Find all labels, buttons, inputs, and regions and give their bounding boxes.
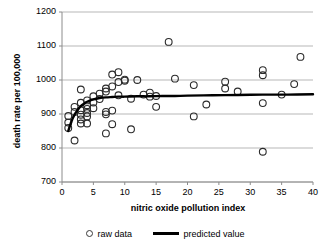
x-tick-label-20: 20	[176, 187, 200, 197]
data-point	[71, 137, 78, 144]
y-tick-label-700: 700	[26, 176, 56, 186]
y-axis-title-wrapper: death rate per 100,000	[12, 11, 26, 191]
x-tick-label-25: 25	[207, 187, 231, 197]
legend-label-predicted-value: predicted value	[184, 229, 245, 239]
scatter-chart: 700800900100011001200 0510152025303540 d…	[0, 0, 331, 252]
prediction-curve-path	[68, 94, 313, 131]
y-tick-label-1200: 1200	[26, 6, 56, 16]
legend-item-predicted-value: predicted value	[153, 228, 245, 239]
chart-legend: raw data predicted value	[0, 228, 331, 239]
data-point	[109, 121, 116, 128]
x-tick-label-30: 30	[238, 187, 262, 197]
data-point	[190, 82, 197, 89]
x-tick-label-5: 5	[81, 187, 105, 197]
x-tick-label-0: 0	[50, 187, 74, 197]
y-tick-label-1100: 1100	[26, 40, 56, 50]
data-point	[115, 69, 122, 76]
x-tick-label-15: 15	[144, 187, 168, 197]
data-point	[291, 81, 298, 88]
data-point	[153, 103, 160, 110]
data-point	[297, 53, 304, 60]
x-tick-label-10: 10	[113, 187, 137, 197]
legend-item-raw-data: raw data	[86, 228, 132, 239]
data-point	[77, 86, 84, 93]
y-tick-label-1000: 1000	[26, 74, 56, 84]
data-point	[103, 130, 110, 137]
data-point	[259, 100, 266, 107]
data-point	[172, 75, 179, 82]
x-tick-label-35: 35	[270, 187, 294, 197]
y-axis-title: death rate per 100,000	[12, 11, 22, 191]
predicted-value-line	[68, 94, 313, 131]
y-tick-label-900: 900	[26, 108, 56, 118]
data-point	[259, 148, 266, 155]
line-swatch-icon	[153, 232, 179, 235]
data-point	[222, 78, 229, 85]
x-axis-title: nitric oxide pollution index	[62, 203, 314, 213]
legend-label-raw-data: raw data	[97, 229, 132, 239]
plot-area	[0, 0, 331, 252]
data-point	[109, 107, 116, 114]
x-tick-label-40: 40	[301, 187, 325, 197]
data-point	[128, 126, 135, 133]
data-point	[259, 72, 266, 79]
data-point	[109, 83, 116, 90]
data-point	[165, 39, 172, 46]
open-circle-icon	[86, 230, 93, 237]
data-point	[203, 101, 210, 108]
y-tick-label-800: 800	[26, 142, 56, 152]
data-point	[222, 85, 229, 92]
